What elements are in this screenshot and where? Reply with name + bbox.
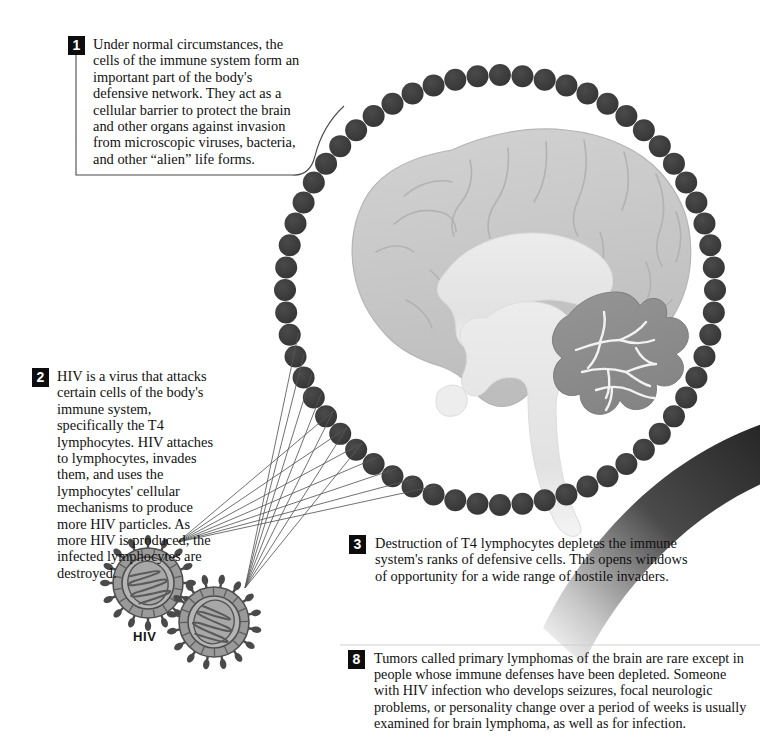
immune-cell [576,83,598,105]
immune-cell [534,69,556,91]
immune-cell [649,423,671,445]
immune-cell [675,172,697,194]
callout-8-badge: 8 [348,650,365,669]
immune-cell [382,93,404,115]
leader-line [245,393,322,588]
virus-spike-knob [219,658,227,669]
callout-1-badge: 1 [68,36,85,55]
immune-cell [699,324,721,346]
leader-line [245,333,299,588]
illustration-canvas: 1Under normal circumstances, the cells o… [0,0,760,738]
callout-8: 8Tumors called primary lymphomas of the … [348,650,758,731]
immune-cell [615,105,637,127]
leader-line [245,443,362,588]
immune-cell [511,493,533,515]
immune-cell [423,75,445,97]
immune-cell [345,439,367,461]
immune-cell [685,192,707,214]
immune-cell [402,83,424,105]
immune-cell [363,453,385,475]
immune-cell [663,153,685,175]
immune-cell [467,65,489,87]
immune-cell [693,213,715,235]
immune-cell [329,135,351,157]
immune-cell [597,93,619,115]
callout-1-text: Under normal circumstances, the cells of… [93,36,307,167]
virus-spike-knob [166,627,177,635]
immune-cell [615,453,637,475]
callout-3-text: Destruction of T4 lymphocytes depletes t… [375,535,695,584]
immune-cell [444,489,466,511]
virus-spike-knob [250,609,261,617]
immune-cell [576,475,598,497]
immune-cell [685,366,707,388]
immune-cell [633,439,655,461]
immune-cell [363,105,385,127]
immune-cell [597,465,619,487]
immune-cell [511,65,533,87]
virus-spike-knob [102,595,114,605]
callout-3-badge: 3 [349,535,366,554]
immune-cell [663,405,685,427]
immune-cell [489,64,511,86]
virus-spike-knob [202,659,210,670]
callout-8-text: Tumors called primary lymphomas of the b… [374,650,754,731]
immune-cell [345,119,367,141]
leader-line [245,354,304,588]
immune-cell [633,119,655,141]
immune-cell [534,489,556,511]
immune-cell [275,257,297,279]
immune-cell [275,301,297,323]
hypothalamus-lobe [436,385,467,416]
immune-cell [703,257,725,279]
immune-cell [555,483,577,505]
immune-cell [382,465,404,487]
leader-line [245,411,333,588]
immune-cell [649,135,671,157]
immune-cell [699,234,721,256]
immune-cell [279,234,301,256]
immune-cell [703,301,725,323]
immune-cell [675,387,697,409]
virus-spike-knob [127,617,137,629]
immune-cell [704,279,726,301]
immune-cell [489,494,511,516]
hiv-label: HIV [133,629,156,644]
immune-cell [693,345,715,367]
immune-cell [279,324,301,346]
leader-line [245,428,347,588]
callout-2: 2HIV is a virus that attacks certain cel… [32,368,232,581]
callout-1: 1Under normal circumstances, the cells o… [68,36,318,167]
immune-cell [329,423,351,445]
immune-cell [303,172,325,194]
immune-cell [467,493,489,515]
leader-line [245,374,312,588]
immune-cell [303,387,325,409]
immune-cell [402,475,424,497]
immune-cell [315,153,337,175]
virus-spike-knob [251,626,262,634]
immune-cell [274,279,296,301]
virus-spike-knob [160,617,170,629]
callout-2-text: HIV is a virus that attacks certain cell… [57,368,217,581]
callout-3: 3Destruction of T4 lymphocytes depletes … [349,535,709,584]
immune-cell [285,213,307,235]
immune-cell [293,192,315,214]
immune-cell [444,69,466,91]
callout-2-badge: 2 [32,368,49,387]
immune-cell [555,75,577,97]
